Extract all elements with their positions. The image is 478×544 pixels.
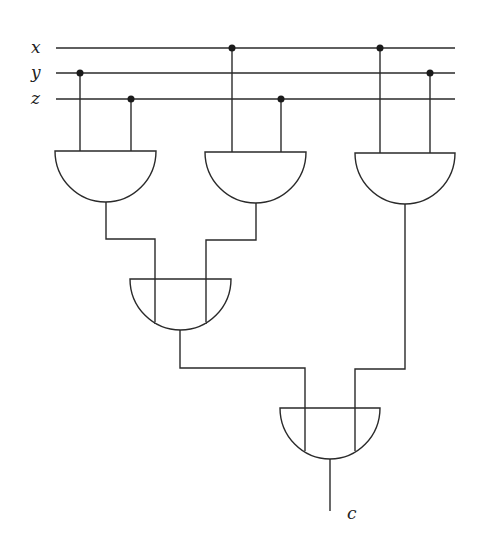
and-gate-3 <box>355 153 455 204</box>
junction-dot <box>377 45 384 52</box>
input-label-z: z <box>30 88 41 108</box>
logic-circuit-diagram: x y z c <box>0 0 478 544</box>
junction-dot <box>229 45 236 52</box>
and-gate-2 <box>205 152 306 203</box>
and-gate-5 <box>280 408 380 459</box>
input-label-x: x <box>31 37 41 57</box>
and-gate-4 <box>130 279 231 330</box>
input-label-y: y <box>30 62 41 82</box>
junction-dot <box>427 70 434 77</box>
and-gate-1 <box>55 151 156 202</box>
junction-dot <box>278 96 285 103</box>
output-label-c: c <box>347 503 357 523</box>
junction-dot <box>77 70 84 77</box>
junction-dot <box>128 96 135 103</box>
